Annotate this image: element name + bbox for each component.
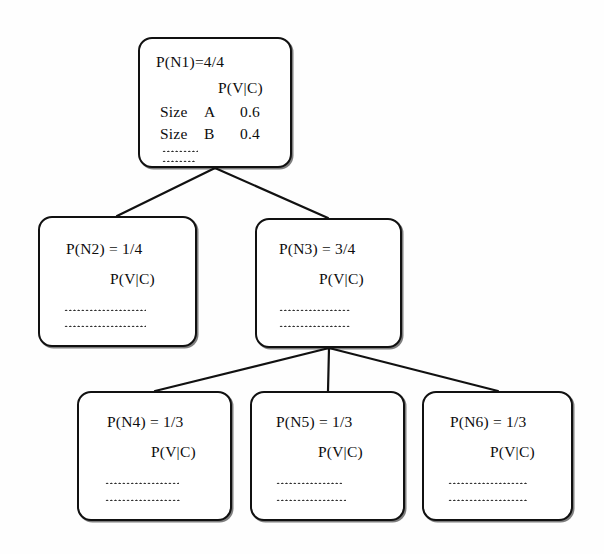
node-n1-ellipsis-row-1 <box>162 149 198 152</box>
tree-node-n6[interactable]: P(N6) = 1/3 P(V|C) <box>422 391 573 521</box>
node-n5-title: P(N5) = 1/3 <box>276 413 352 431</box>
node-n2-ellipsis-row-2 <box>64 324 146 327</box>
diagram-canvas: P(N1)=4/4 P(V|C) SizeA0.6 SizeB0.4 P(N2)… <box>0 0 604 554</box>
node-n1-row-2-label: Size <box>160 125 204 143</box>
edge-n3-n5 <box>328 348 329 391</box>
node-n1-row-1-label: Size <box>160 103 204 121</box>
tree-node-n5[interactable]: P(N5) = 1/3 P(V|C) <box>250 391 405 521</box>
tree-node-n2[interactable]: P(N2) = 1/4 P(V|C) <box>38 216 197 347</box>
node-n2-title: P(N2) = 1/4 <box>66 240 142 258</box>
edge-n1-n2 <box>117 168 215 216</box>
node-n1-pvc-header: P(V|C) <box>218 79 263 97</box>
node-n5-ellipsis-row-1 <box>276 481 342 484</box>
node-n1-row-1: SizeA0.6 <box>160 103 260 121</box>
node-n1-row-1-value: 0.6 <box>240 103 260 121</box>
node-n5-pvc-header: P(V|C) <box>318 443 363 461</box>
node-n1-row-2-value: 0.4 <box>240 125 260 143</box>
node-n6-ellipsis-row-2 <box>448 498 528 501</box>
node-n1-row-1-category: A <box>204 103 240 121</box>
node-n1-ellipsis-row-2 <box>162 159 196 162</box>
node-n3-title: P(N3) = 3/4 <box>279 240 355 258</box>
node-n6-title: P(N6) = 1/3 <box>450 413 526 431</box>
node-n4-title: P(N4) = 1/3 <box>107 413 183 431</box>
node-n6-pvc-header: P(V|C) <box>490 443 535 461</box>
node-n6-ellipsis-row-1 <box>448 481 528 484</box>
node-n2-ellipsis-row-1 <box>64 308 146 311</box>
tree-node-n3[interactable]: P(N3) = 3/4 P(V|C) <box>255 218 402 348</box>
edge-n3-n6 <box>329 348 498 391</box>
node-n3-pvc-header: P(V|C) <box>319 270 364 288</box>
tree-node-n1[interactable]: P(N1)=4/4 P(V|C) SizeA0.6 SizeB0.4 <box>138 37 292 168</box>
node-n2-pvc-header: P(V|C) <box>110 270 155 288</box>
node-n1-row-2: SizeB0.4 <box>160 125 260 143</box>
node-n5-ellipsis-row-2 <box>276 498 346 501</box>
node-n3-ellipsis-row-2 <box>279 324 351 327</box>
node-n4-pvc-header: P(V|C) <box>151 443 196 461</box>
node-n4-ellipsis-row-1 <box>105 481 179 484</box>
node-n1-row-2-category: B <box>204 125 240 143</box>
edge-n1-n3 <box>215 168 328 218</box>
node-n3-ellipsis-row-1 <box>279 308 351 311</box>
edge-n3-n4 <box>155 348 329 391</box>
node-n4-ellipsis-row-2 <box>105 498 181 501</box>
node-n1-title: P(N1)=4/4 <box>156 53 224 71</box>
tree-node-n4[interactable]: P(N4) = 1/3 P(V|C) <box>77 391 232 521</box>
